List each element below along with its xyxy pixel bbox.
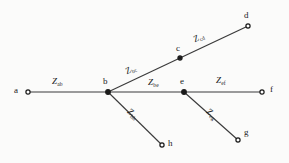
node-label-g: g — [244, 128, 249, 137]
node-marker-d — [246, 24, 250, 28]
node-label-e: e — [180, 77, 184, 86]
node-label-c: c — [176, 44, 180, 53]
edge-label-ef: Zef — [216, 76, 226, 85]
edge-subscript-ab: ab — [57, 81, 62, 87]
edge-subscript-be: be — [153, 82, 158, 88]
impedance-network-diagram: abcdefgh ZabZbcZcdZbeZefZbhZeg — [0, 0, 289, 163]
edge-line-bc — [108, 58, 180, 92]
node-label-a: a — [14, 86, 18, 95]
node-marker-e — [182, 90, 187, 95]
node-marker-h — [160, 143, 164, 147]
node-marker-b — [106, 90, 111, 95]
node-marker-g — [236, 138, 240, 142]
node-label-h: h — [168, 139, 173, 148]
network-graph-canvas — [0, 0, 289, 163]
edge-label-ab: Zab — [52, 77, 62, 86]
node-marker-c — [178, 56, 182, 60]
node-marker-f — [260, 90, 264, 94]
edge-subscript-ef: ef — [221, 80, 225, 86]
node-label-f: f — [270, 85, 273, 94]
edge-label-be: Zbe — [148, 78, 158, 87]
edge-line-cd — [180, 26, 248, 58]
node-marker-a — [26, 90, 30, 94]
edge-lines — [28, 26, 262, 145]
node-label-d: d — [244, 11, 249, 20]
node-label-b: b — [103, 77, 108, 86]
